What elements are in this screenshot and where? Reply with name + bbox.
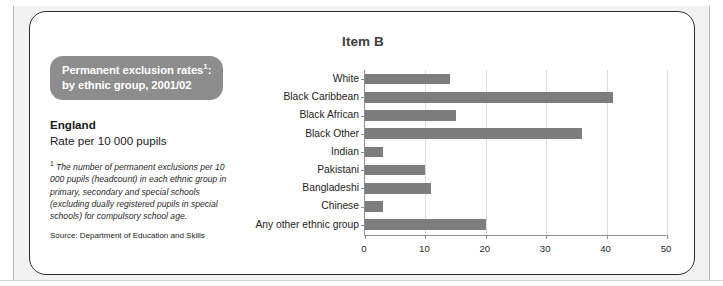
chart-subtitle-pill: Permanent exclusion rates1: by ethnic gr… xyxy=(50,56,223,100)
x-tick-label: 20 xyxy=(479,243,490,254)
bar xyxy=(365,165,425,176)
figure-card: Item B Permanent exclusion rates1: by et… xyxy=(29,11,695,275)
footnote: 1The number of permanent exclusions per … xyxy=(50,159,228,222)
pill-line-1-suffix: : xyxy=(208,64,212,76)
gridline xyxy=(667,70,668,235)
value-axis-labels: 01020304050 xyxy=(364,236,666,256)
pill-line-1-text: Permanent exclusion rates xyxy=(62,64,203,76)
bar-row xyxy=(365,88,613,106)
bar-row xyxy=(365,216,486,234)
category-label: White xyxy=(248,70,364,88)
country-label: England xyxy=(50,117,246,132)
bar xyxy=(365,74,450,85)
plot-area xyxy=(364,70,666,236)
x-tick-label: 40 xyxy=(600,243,611,254)
footnote-text: The number of permanent exclusions per 1… xyxy=(50,162,226,221)
category-label: Black Caribbean xyxy=(248,88,364,106)
category-label: Bangladeshi xyxy=(248,179,364,197)
source-line: Source: Department of Education and Skil… xyxy=(50,231,246,241)
category-label: Any other ethnic group xyxy=(248,216,364,234)
bar-row xyxy=(365,70,450,88)
category-label: Pakistani xyxy=(248,161,364,179)
screenshot-root: Item B Permanent exclusion rates1: by et… xyxy=(0,0,723,286)
bar xyxy=(365,128,582,139)
category-label: Chinese xyxy=(248,197,364,215)
bar xyxy=(365,110,456,121)
bar xyxy=(365,219,486,230)
bar-row xyxy=(365,179,431,197)
bar xyxy=(365,183,431,194)
footnote-marker: 1 xyxy=(50,160,54,167)
chart-title: Item B xyxy=(30,34,695,49)
category-label: Indian xyxy=(248,143,364,161)
page-frame-right-edge xyxy=(709,0,723,286)
caption-column: Permanent exclusion rates1: by ethnic gr… xyxy=(50,56,246,242)
x-tick-label: 30 xyxy=(540,243,551,254)
bar-row xyxy=(365,197,383,215)
x-tick-label: 50 xyxy=(661,243,672,254)
bar xyxy=(365,92,613,103)
x-tick-label: 10 xyxy=(419,243,430,254)
page-frame-bottom-edge xyxy=(0,280,723,286)
bar xyxy=(365,147,383,158)
page-frame-top-edge xyxy=(0,0,723,6)
bar-chart: WhiteBlack CaribbeanBlack AfricanBlack O… xyxy=(248,64,678,264)
x-tick-mark xyxy=(667,235,668,239)
x-tick-label: 0 xyxy=(361,243,366,254)
pill-line-2-text: by ethnic group, 2001/02 xyxy=(62,79,191,91)
category-label: Black African xyxy=(248,106,364,124)
bar xyxy=(365,201,383,212)
category-label: Black Other xyxy=(248,125,364,143)
bar-row xyxy=(365,125,582,143)
bar-row xyxy=(365,143,383,161)
bar-row xyxy=(365,161,425,179)
rate-unit-label: Rate per 10 000 pupils xyxy=(50,133,246,149)
category-axis-labels: WhiteBlack CaribbeanBlack AfricanBlack O… xyxy=(248,70,364,234)
bar-row xyxy=(365,106,456,124)
page-frame-left-edge xyxy=(0,0,14,286)
